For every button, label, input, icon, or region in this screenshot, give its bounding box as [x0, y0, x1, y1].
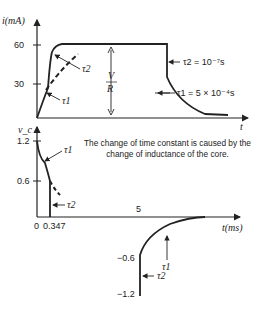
annotation-note: The change of time constant is caused by… — [80, 138, 255, 160]
current-plot: i(mA) 60 30 τ2 τ1 V R t τ2 = 10⁻⁷s τ1 = … — [2, 15, 248, 132]
tau2-label-bottom: τ2 — [67, 199, 76, 210]
tau2-label: τ2 — [82, 63, 91, 74]
x-axis-label: t — [240, 121, 243, 132]
tick-neg-1-2: −1.2 — [117, 289, 135, 299]
tick-neg-0-6: −0.6 — [117, 253, 135, 263]
tau1-label: τ1 — [62, 95, 71, 106]
tau2-value: τ2 = 10⁻⁷s — [183, 57, 225, 67]
tick-5: 5 — [136, 204, 141, 214]
tick-60: 60 — [14, 40, 24, 50]
vr-numerator: V — [108, 70, 116, 81]
tick-0-6: 0.6 — [17, 176, 30, 186]
tick-0: 0 — [34, 221, 39, 231]
tau1-label-bottom: τ1 — [64, 144, 73, 155]
voltage-axis-label: v_c — [18, 124, 32, 135]
tick-1-2: 1.2 — [17, 136, 30, 146]
tick-30: 30 — [14, 79, 24, 89]
current-curve — [37, 44, 228, 118]
vr-denominator: R — [106, 83, 113, 94]
y-axis-label: i(mA) — [2, 15, 25, 27]
tau1-value: τ1 = 5 × 10⁻⁴s — [177, 88, 235, 98]
tau2-label-neg: τ2 — [157, 270, 166, 281]
tick-0-347: 0.347 — [43, 221, 66, 231]
time-axis-label: t(ms) — [222, 222, 243, 234]
